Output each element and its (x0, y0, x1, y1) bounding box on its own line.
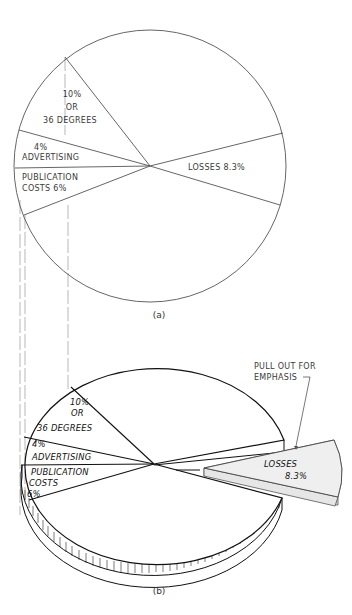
callout-line-2: EMPHASIS (254, 373, 297, 382)
label-advertising-percent: 4% (34, 143, 47, 152)
callout-line-1: PULL OUT FOR (254, 362, 316, 371)
label-36-degrees: 36 DEGREES (43, 116, 97, 125)
flat-pie-labels: 10% OR 36 DEGREES 4% ADVERTISING PUBLICA… (22, 90, 245, 193)
callout-leader-line (296, 377, 310, 446)
label-six-percent-b: 6% (27, 489, 41, 499)
label-ten-percent: 10% (63, 90, 82, 99)
label-advertising: ADVERTISING (22, 153, 79, 162)
label-losses-b: LOSSES (264, 459, 298, 469)
label-publication-costs: COSTS 6% (22, 184, 67, 193)
flat-pie-chart (14, 30, 286, 302)
label-losses: LOSSES 8.3% (188, 163, 245, 172)
label-or-b: OR (71, 408, 84, 418)
label-advertising-b: ADVERTISING (31, 452, 92, 462)
label-36-degrees-b: 36 DEGREES (37, 423, 93, 433)
caption-a: (a) (153, 310, 166, 320)
label-or: OR (66, 103, 79, 112)
label-losses-percent-b: 8.3% (285, 471, 307, 481)
label-costs-b: COSTS (29, 478, 59, 488)
label-publication-b: PUBLICATION (31, 467, 89, 477)
pie-chart-figure: 10% OR 36 DEGREES 4% ADVERTISING PUBLICA… (0, 0, 352, 615)
label-publication: PUBLICATION (22, 173, 78, 182)
label-ten-percent-b: 10% (70, 397, 89, 407)
caption-b: (b) (153, 586, 166, 596)
label-advertising-percent-b: 4% (32, 439, 46, 449)
